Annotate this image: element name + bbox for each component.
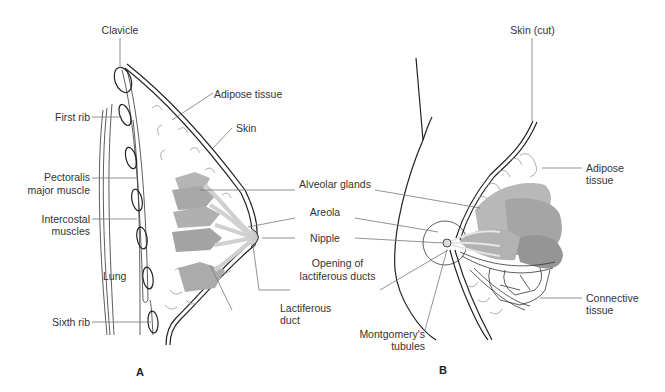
label-pectoralis-line2: major muscle xyxy=(10,184,90,196)
label-first-rib: First rib xyxy=(30,111,90,123)
label-adipose-b-line1: Adipose xyxy=(586,162,624,174)
label-intercostal-line1: Intercostal xyxy=(10,213,90,225)
label-alveolar-glands: Alveolar glands xyxy=(290,178,380,190)
label-intercostal-line2: muscles xyxy=(10,225,90,237)
label-adipose-tissue-a: Adipose tissue xyxy=(214,88,282,100)
rib-4 xyxy=(135,226,149,249)
label-opening-line2: lactiferous ducts xyxy=(290,270,385,282)
panel-b-drawing xyxy=(395,38,582,340)
label-clavicle: Clavicle xyxy=(100,24,140,36)
panel-label-a: A xyxy=(136,366,144,378)
label-pectoralis-line1: Pectoralis xyxy=(10,171,90,183)
label-skin-a: Skin xyxy=(236,122,256,134)
label-skin-cut: Skin (cut) xyxy=(505,24,560,36)
label-lactiferous-duct-line2: duct xyxy=(280,314,300,326)
panel-a-drawing xyxy=(92,38,259,345)
label-montgomery-line2: tubules xyxy=(330,340,425,352)
label-lung: Lung xyxy=(103,270,126,282)
label-opening-line1: Opening of xyxy=(290,257,385,269)
label-connective-line2: tissue xyxy=(586,304,613,316)
label-connective-line1: Connective xyxy=(586,292,639,304)
label-areola: Areola xyxy=(290,206,360,218)
label-sixth-rib: Sixth rib xyxy=(20,316,90,328)
label-nipple: Nipple xyxy=(290,232,360,244)
label-montgomery-line1: Montgomery's xyxy=(330,328,425,340)
rib-3 xyxy=(130,188,144,212)
label-lactiferous-duct-line1: Lactiferous xyxy=(280,302,331,314)
panel-label-b: B xyxy=(439,364,447,376)
rib-2 xyxy=(123,146,138,170)
label-adipose-b-line2: tissue xyxy=(586,174,613,186)
